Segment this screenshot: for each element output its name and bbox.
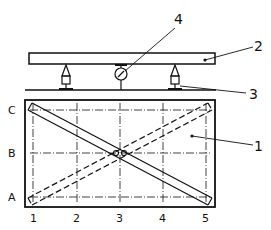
- column-label-2: 2: [73, 212, 80, 225]
- leader-1: [192, 136, 253, 145]
- callout-1: 1: [254, 138, 263, 154]
- column-label-1: 1: [30, 212, 37, 225]
- row-label-c: C: [8, 104, 16, 117]
- callout-4: 4: [174, 11, 183, 27]
- row-label-a: A: [8, 191, 16, 204]
- row-label-b: B: [8, 147, 16, 160]
- callout-3: 3: [249, 86, 258, 102]
- callout-2: 2: [254, 38, 263, 54]
- straightness-measurement-diagram: 4 2 3 1 C B A 1 2 3 4 5: [0, 0, 271, 230]
- straight-edge-beam: [29, 53, 215, 64]
- dial-gauge: [115, 65, 127, 90]
- column-label-4: 4: [159, 212, 166, 225]
- left-support: [59, 65, 73, 89]
- column-label-5: 5: [202, 212, 209, 225]
- measurement-grid: [30, 103, 211, 204]
- right-support: [168, 65, 182, 89]
- column-label-3: 3: [116, 212, 123, 225]
